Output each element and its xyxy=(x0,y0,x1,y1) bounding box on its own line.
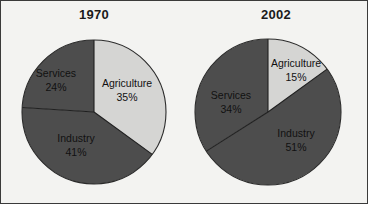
slice-label-industry: Industry xyxy=(277,127,315,139)
slice-label-agriculture: Agriculture xyxy=(271,57,321,69)
pie-svg-2002: Agriculture15%Industry51%Services34% xyxy=(183,1,368,204)
slice-value-services: 34% xyxy=(220,103,241,115)
slice-label-agriculture: Agriculture xyxy=(102,77,152,89)
chart-panel-1970: 1970 Agriculture35%Industry41%Services24… xyxy=(1,1,187,204)
slice-value-industry: 41% xyxy=(65,146,86,158)
chart-panel-2002: 2002 Agriculture15%Industry51%Services34… xyxy=(183,1,368,204)
slice-label-services: Services xyxy=(211,89,251,101)
slice-value-industry: 51% xyxy=(285,141,306,153)
pie-canvas-2002: Agriculture15%Industry51%Services34% xyxy=(183,1,368,204)
slice-value-agriculture: 15% xyxy=(285,71,306,83)
slice-value-services: 24% xyxy=(45,81,66,93)
pie-chart-figure: 1970 Agriculture35%Industry41%Services24… xyxy=(0,0,368,204)
slice-label-industry: Industry xyxy=(57,132,95,144)
slice-label-services: Services xyxy=(36,67,76,79)
pie-svg-1970: Agriculture35%Industry41%Services24% xyxy=(1,1,187,204)
pie-canvas-1970: Agriculture35%Industry41%Services24% xyxy=(1,1,187,204)
slice-value-agriculture: 35% xyxy=(116,91,137,103)
